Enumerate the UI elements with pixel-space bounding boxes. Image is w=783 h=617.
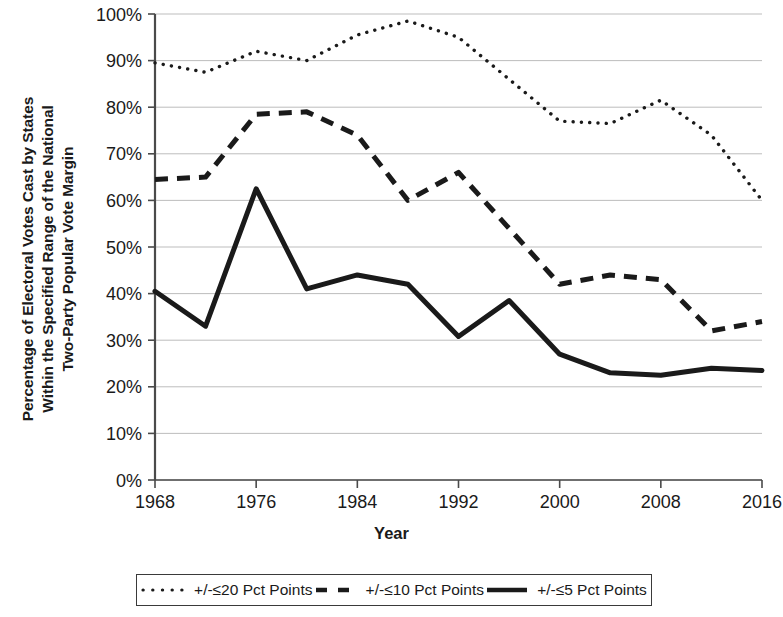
x-tick-label: 2000 [540,492,580,512]
x-tick-label: 2016 [742,492,782,512]
legend-item-5[interactable]: +/-≤5 Pct Points [484,581,647,599]
legend-item-10[interactable]: +/-≤10 Pct Points [313,581,484,599]
y-tick-label: 100% [96,5,142,25]
legend-item-20[interactable]: +/-≤20 Pct Points [141,581,312,599]
legend-label-10: +/-≤10 Pct Points [366,581,484,599]
x-tick-label: 1992 [438,492,478,512]
gridlines [155,14,762,480]
y-axis-ticks: 0%10%20%30%40%50%60%70%80%90%100% [96,5,155,491]
data-series-layer [155,21,762,375]
plot-area: 0%10%20%30%40%50%60%70%80%90%100% 196819… [0,0,783,520]
y-tick-label: 50% [106,238,142,258]
legend-swatch-dotted-icon [141,584,187,596]
y-tick-label: 80% [106,98,142,118]
x-axis-ticks: 1968197619841992200020082016 [135,480,782,512]
x-axis-title: Year [0,524,783,543]
y-tick-label: 70% [106,144,142,164]
legend-label-5: +/-≤5 Pct Points [537,581,647,599]
legend-label-20: +/-≤20 Pct Points [194,581,312,599]
y-tick-label: 90% [106,51,142,71]
y-tick-label: 20% [106,377,142,397]
x-tick-label: 1984 [337,492,377,512]
x-tick-label: 2008 [641,492,681,512]
x-tick-label: 1968 [135,492,175,512]
y-tick-label: 0% [116,471,142,491]
x-tick-label: 1976 [236,492,276,512]
y-tick-label: 60% [106,191,142,211]
legend-swatch-dashed-icon [313,584,359,596]
y-tick-label: 40% [106,284,142,304]
legend-swatch-solid-icon [484,584,530,596]
series-line-solid [155,189,762,375]
chart-legend: +/-≤20 Pct Points +/-≤10 Pct Points +/-≤… [136,574,652,606]
chart-container: Percentage of Electoral Votes Cast by St… [0,0,783,617]
y-tick-label: 30% [106,331,142,351]
y-tick-label: 10% [106,424,142,444]
